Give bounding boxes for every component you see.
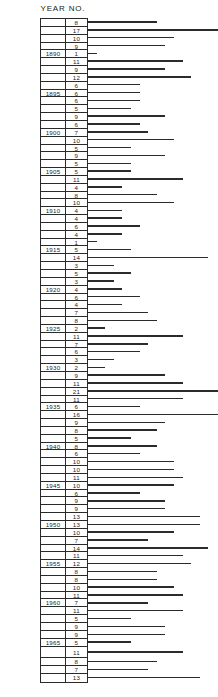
cell-year bbox=[41, 231, 66, 238]
cell-no: 7 bbox=[66, 309, 87, 316]
bar bbox=[88, 92, 140, 93]
cell-no: 5 bbox=[66, 615, 87, 622]
cell-no: 1 bbox=[66, 50, 87, 57]
bar bbox=[88, 280, 114, 281]
cell-no: 5 bbox=[66, 105, 87, 112]
cell-no: 10 bbox=[66, 529, 87, 536]
table-row: 9 bbox=[41, 113, 87, 121]
cell-year bbox=[41, 301, 66, 308]
cell-year bbox=[41, 388, 66, 395]
cell-year bbox=[41, 466, 66, 473]
cell-no: 10 bbox=[66, 35, 87, 42]
cell-no: 8 bbox=[66, 317, 87, 324]
cell-year: 1955 bbox=[41, 560, 66, 567]
cell-no: 8 bbox=[66, 443, 87, 450]
bar bbox=[88, 398, 183, 399]
cell-year bbox=[41, 505, 66, 512]
bar bbox=[88, 516, 200, 517]
bar bbox=[88, 265, 114, 266]
table-row: 7 bbox=[41, 666, 87, 674]
cell-no: 6 bbox=[66, 403, 87, 410]
table-row: 11 bbox=[41, 380, 87, 388]
table-row: 10 bbox=[41, 584, 87, 592]
cell-no: 16 bbox=[66, 411, 87, 418]
cell-year bbox=[41, 607, 66, 614]
cell-no: 9 bbox=[66, 631, 87, 638]
cell-no: 13 bbox=[66, 521, 87, 528]
table-row: 5 bbox=[41, 435, 87, 443]
cell-no: 5 bbox=[66, 435, 87, 442]
cell-year bbox=[41, 278, 66, 285]
bars-layer bbox=[88, 18, 218, 678]
cell-no: 6 bbox=[66, 348, 87, 355]
cell-no: 11 bbox=[66, 607, 87, 614]
table-row: 6 bbox=[41, 294, 87, 302]
cell-no: 7 bbox=[66, 666, 87, 673]
table-row: 4 bbox=[41, 231, 87, 239]
table-row: 19607 bbox=[41, 599, 87, 607]
cell-no: 5 bbox=[66, 246, 87, 253]
cell-year: 1940 bbox=[41, 443, 66, 450]
bar bbox=[88, 374, 165, 375]
bar bbox=[88, 492, 140, 493]
table-row: 9 bbox=[41, 43, 87, 51]
cell-no: 3 bbox=[66, 262, 87, 269]
cell-year bbox=[41, 356, 66, 363]
table-row: 4 bbox=[41, 301, 87, 309]
table-row: 11 bbox=[41, 647, 87, 659]
bar bbox=[88, 602, 148, 603]
table-row: 11 bbox=[41, 333, 87, 341]
cell-year bbox=[41, 419, 66, 426]
cell-no: 5 bbox=[66, 145, 87, 152]
bar bbox=[88, 84, 140, 85]
bar bbox=[88, 320, 157, 321]
cell-year bbox=[41, 43, 66, 50]
bar bbox=[88, 210, 122, 211]
cell-year bbox=[41, 27, 66, 34]
cell-no: 4 bbox=[66, 215, 87, 222]
table-row: 14 bbox=[41, 545, 87, 553]
bar bbox=[88, 225, 140, 226]
table-row: 8 bbox=[41, 658, 87, 666]
table-row: 9 bbox=[41, 152, 87, 160]
table-row: 11 bbox=[41, 474, 87, 482]
cell-year bbox=[41, 411, 66, 418]
cell-year bbox=[41, 568, 66, 575]
bar bbox=[88, 68, 165, 69]
bar bbox=[88, 155, 165, 156]
cell-year bbox=[41, 145, 66, 152]
table-row: 19408 bbox=[41, 443, 87, 451]
cell-no: 4 bbox=[66, 207, 87, 214]
table-row: 7 bbox=[41, 309, 87, 317]
table-row: 8 bbox=[41, 317, 87, 325]
cell-year: 1935 bbox=[41, 403, 66, 410]
bar bbox=[88, 288, 122, 289]
table-row: 19356 bbox=[41, 403, 87, 411]
bar bbox=[88, 579, 157, 580]
cell-year: 1960 bbox=[41, 599, 66, 606]
cell-year bbox=[41, 552, 66, 559]
cell-year bbox=[41, 35, 66, 42]
cell-year bbox=[41, 215, 66, 222]
table-row: 9 bbox=[41, 505, 87, 513]
table-row: 6 bbox=[41, 82, 87, 90]
table-row: 16 bbox=[41, 411, 87, 419]
column-header-no: NO. bbox=[66, 2, 88, 16]
cell-year bbox=[41, 66, 66, 73]
bar bbox=[88, 115, 165, 116]
bar bbox=[88, 335, 183, 336]
bar bbox=[88, 414, 218, 415]
table-row: 1 bbox=[41, 239, 87, 247]
cell-year bbox=[41, 333, 66, 340]
cell-no: 17 bbox=[66, 27, 87, 34]
cell-no: 9 bbox=[66, 623, 87, 630]
table-row: 4 bbox=[41, 184, 87, 192]
table-row: 3 bbox=[41, 262, 87, 270]
bar bbox=[88, 661, 157, 662]
bar bbox=[88, 539, 148, 540]
cell-year bbox=[41, 513, 66, 520]
cell-no: 6 bbox=[66, 90, 87, 97]
bar bbox=[88, 194, 157, 195]
bar bbox=[88, 163, 131, 164]
cell-year: 1945 bbox=[41, 482, 66, 489]
